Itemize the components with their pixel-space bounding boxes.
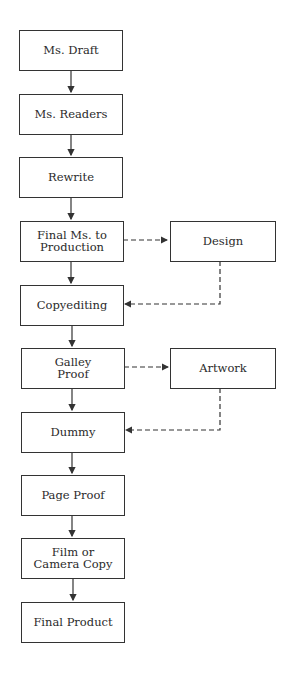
node-label: Galley Proof [55, 357, 92, 380]
node-ms-draft: Ms. Draft [19, 30, 123, 71]
node-copyediting: Copyediting [20, 285, 124, 326]
node-label: Page Proof [41, 490, 104, 502]
node-ms-readers: Ms. Readers [19, 94, 123, 135]
node-label: Final Product [33, 617, 112, 629]
node-label: Design [203, 236, 243, 248]
node-final-ms: Final Ms. to Production [20, 221, 124, 262]
node-label: Ms. Readers [35, 109, 108, 121]
node-label: Final Ms. to Production [37, 230, 107, 253]
node-label: Ms. Draft [43, 45, 98, 57]
node-galley-proof: Galley Proof [21, 348, 125, 389]
node-label: Copyediting [37, 300, 108, 312]
node-artwork: Artwork [170, 348, 276, 389]
node-final-product: Final Product [21, 602, 125, 643]
node-rewrite: Rewrite [19, 157, 123, 198]
node-label: Rewrite [48, 172, 94, 184]
node-label: Film or Camera Copy [34, 547, 113, 570]
node-film-camera-copy: Film or Camera Copy [21, 538, 125, 579]
node-dummy: Dummy [21, 412, 125, 453]
node-design: Design [170, 221, 276, 262]
node-label: Dummy [51, 427, 96, 439]
dashed-arrow-design-copyediting [125, 261, 220, 304]
node-page-proof: Page Proof [21, 475, 125, 516]
node-label: Artwork [199, 363, 247, 375]
dashed-arrow-artwork-dummy [126, 388, 220, 430]
